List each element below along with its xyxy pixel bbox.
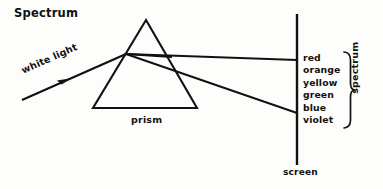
- spectrum-color-red: red: [303, 52, 340, 64]
- prism-triangle-shape: [93, 20, 197, 108]
- spectrum-color-yellow: yellow: [303, 77, 340, 89]
- violet-refracted-ray: [126, 54, 297, 113]
- spectrum-diagram-figure: Spectrum white light prism screen spectr…: [0, 0, 383, 189]
- spectrum-bracket-label: spectrum: [350, 42, 360, 94]
- spectrum-color-blue: blue: [303, 102, 340, 114]
- spectrum-color-orange: orange: [303, 64, 340, 76]
- figure-title: Spectrum: [14, 8, 78, 20]
- prism-label: prism: [131, 115, 162, 125]
- spectrum-color-violet: violet: [303, 114, 340, 126]
- spectrum-color-list: red orange yellow green blue violet: [303, 52, 340, 126]
- red-refracted-ray: [126, 54, 297, 60]
- screen-label: screen: [283, 168, 318, 177]
- spectrum-color-green: green: [303, 89, 340, 101]
